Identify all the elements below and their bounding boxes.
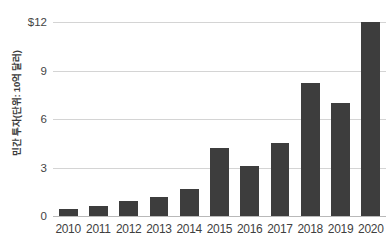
x-tick-label: 2012 bbox=[114, 222, 144, 236]
bar-slot bbox=[114, 22, 144, 216]
x-tick-label: 2018 bbox=[295, 222, 325, 236]
bar[interactable] bbox=[361, 22, 380, 216]
bar-slot bbox=[144, 22, 174, 216]
bar[interactable] bbox=[89, 206, 108, 216]
bar[interactable] bbox=[210, 148, 229, 216]
x-tick-label: 2011 bbox=[83, 222, 113, 236]
bar[interactable] bbox=[271, 143, 290, 216]
bar[interactable] bbox=[301, 83, 320, 216]
x-tick-label: 2015 bbox=[204, 222, 234, 236]
bar-slot bbox=[83, 22, 113, 216]
y-tick-label: 3 bbox=[7, 162, 47, 174]
bar[interactable] bbox=[119, 201, 138, 216]
y-tick-label: $12 bbox=[7, 16, 47, 28]
bar[interactable] bbox=[331, 103, 350, 216]
x-tick-label: 2014 bbox=[174, 222, 204, 236]
x-tick-label: 2020 bbox=[356, 222, 386, 236]
bar[interactable] bbox=[180, 189, 199, 216]
x-axis-ticks: 2010201120122013201420152016201720182019… bbox=[53, 222, 386, 236]
bar[interactable] bbox=[240, 166, 259, 216]
bar-series bbox=[53, 22, 386, 216]
bar-slot bbox=[356, 22, 386, 216]
x-tick-label: 2017 bbox=[265, 222, 295, 236]
bar-slot bbox=[53, 22, 83, 216]
x-tick-label: 2019 bbox=[325, 222, 355, 236]
bar[interactable] bbox=[59, 209, 78, 216]
y-tick-label: 0 bbox=[7, 210, 47, 222]
bar-slot bbox=[325, 22, 355, 216]
bar[interactable] bbox=[150, 197, 169, 216]
x-tick-label: 2013 bbox=[144, 222, 174, 236]
bar-slot bbox=[295, 22, 325, 216]
bar-chart: 민간 투자(단위: 10억 달러) 0369$12 20102011201220… bbox=[0, 0, 392, 251]
bar-slot bbox=[174, 22, 204, 216]
y-tick-label: 6 bbox=[7, 113, 47, 125]
x-tick-label: 2016 bbox=[235, 222, 265, 236]
y-tick-label: 9 bbox=[7, 65, 47, 77]
bar-slot bbox=[204, 22, 234, 216]
bar-slot bbox=[265, 22, 295, 216]
bar-slot bbox=[235, 22, 265, 216]
x-tick-label: 2010 bbox=[53, 222, 83, 236]
y-axis-title: 민간 투자(단위: 10억 달러) bbox=[10, 0, 24, 208]
